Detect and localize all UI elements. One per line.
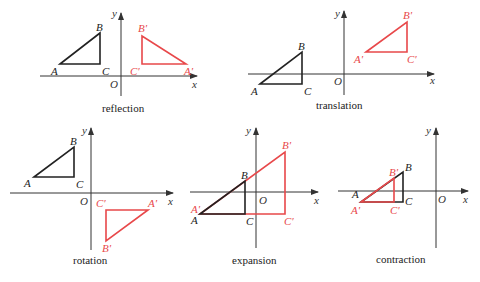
- triangle-abc: [260, 52, 302, 84]
- x-axis-label: x: [167, 195, 173, 207]
- vertex-a-prime-label: A′: [190, 203, 201, 215]
- caption-translation: translation: [316, 99, 363, 111]
- triangle-abc: [60, 33, 100, 64]
- panel-translation: y O x A B C A′ B′ C′ translation: [248, 7, 435, 111]
- vertex-c-label: C: [102, 65, 110, 77]
- vertex-c-prime-label: C′: [407, 53, 417, 65]
- x-axis-label: x: [462, 193, 468, 205]
- vertex-a-prime-label: A′: [147, 197, 158, 209]
- triangle-image: [366, 22, 407, 52]
- panel-rotation: y O x A B C C′ A′ B′ rotation: [10, 124, 173, 266]
- y-axis-label: y: [81, 124, 87, 136]
- vertex-a-label: A: [50, 65, 58, 77]
- y-axis-label: y: [425, 124, 431, 136]
- transformations-diagram: y O x A B C B′ C′ A′ reflection y O x A …: [0, 0, 480, 282]
- caption-rotation: rotation: [73, 254, 108, 266]
- vertex-a-label: A: [250, 85, 258, 97]
- triangle-abc: [34, 147, 74, 177]
- x-axis-label: x: [313, 194, 319, 206]
- vertex-b-prime-label: B′: [102, 242, 112, 254]
- caption-expansion: expansion: [232, 254, 277, 266]
- vertex-a-label: A: [351, 188, 359, 200]
- triangle-image: [142, 36, 186, 64]
- vertex-c-prime-label: C′: [96, 197, 106, 209]
- vertex-b-prime-label: B′: [282, 139, 292, 151]
- vertex-b-prime-label: B′: [403, 9, 413, 21]
- y-axis-label: y: [334, 7, 340, 19]
- triangle-image: [106, 210, 148, 241]
- panel-reflection: y O x A B C B′ C′ A′ reflection: [40, 7, 197, 114]
- panel-contraction: y O x A B C A′ B′ C′ contraction: [338, 124, 468, 265]
- vertex-b-label: B: [70, 135, 77, 147]
- vertex-c-label: C: [304, 85, 312, 97]
- triangle-abc: [200, 181, 245, 214]
- vertex-c-label: C: [246, 215, 254, 227]
- vertex-b-label: B: [241, 169, 248, 181]
- caption-contraction: contraction: [376, 253, 426, 265]
- vertex-a-prime-label: A′: [353, 53, 364, 65]
- origin-label: O: [110, 78, 118, 90]
- vertex-a-label: A: [23, 177, 31, 189]
- y-axis-label: y: [111, 7, 117, 19]
- caption-reflection: reflection: [102, 102, 145, 114]
- origin-label: O: [80, 195, 88, 207]
- x-axis-label: x: [191, 78, 197, 90]
- vertex-b-label: B: [405, 161, 412, 173]
- vertex-b-label: B: [96, 21, 103, 33]
- vertex-a-prime-label: A′: [350, 204, 361, 216]
- vertex-b-prime-label: B′: [138, 22, 148, 34]
- origin-label: O: [259, 194, 267, 206]
- vertex-c-label: C: [76, 178, 84, 190]
- vertex-c-prime-label: C′: [390, 204, 400, 216]
- vertex-a-prime-label: A′: [183, 65, 194, 77]
- origin-label: O: [334, 75, 342, 87]
- y-axis-label: y: [245, 124, 251, 136]
- vertex-c-label: C: [405, 195, 413, 207]
- triangle-image: [361, 178, 394, 202]
- panel-expansion: y O x A B C A′ B′ C′ expansion: [190, 124, 319, 266]
- x-axis-label: x: [429, 74, 435, 86]
- vertex-b-label: B: [298, 40, 305, 52]
- vertex-c-prime-label: C′: [130, 65, 140, 77]
- vertex-c-prime-label: C′: [284, 215, 294, 227]
- origin-label: O: [438, 193, 446, 205]
- vertex-b-prime-label: B′: [389, 166, 399, 178]
- vertex-a-label: A: [190, 214, 198, 226]
